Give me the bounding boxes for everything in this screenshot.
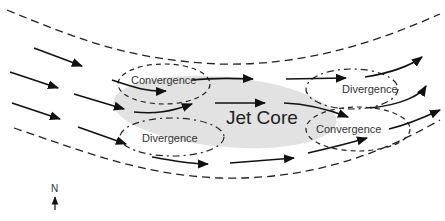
jet-streak-diagram: Convergence Divergence Divergence Conver…	[0, 0, 445, 221]
convergence-label-exit: Convergence	[316, 123, 381, 135]
north-boundary-line	[7, 10, 440, 64]
convergence-label-entrance: Convergence	[131, 74, 196, 86]
jet-core-label: Jet Core	[226, 107, 298, 128]
north-indicator: N	[51, 183, 58, 210]
divergence-label-exit: Divergence	[342, 83, 398, 95]
north-label: N	[51, 183, 58, 194]
divergence-label-entrance: Divergence	[142, 132, 198, 144]
